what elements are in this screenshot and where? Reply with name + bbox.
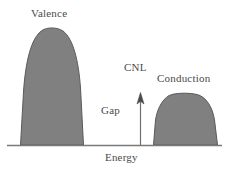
cnl-arrow-icon <box>137 93 144 146</box>
valence-band-shape <box>21 28 84 145</box>
cnl-label: CNL <box>124 61 147 73</box>
conduction-band-label: Conduction <box>157 72 210 84</box>
conduction-band-shape <box>154 93 218 145</box>
band-diagram-figure: Valence CNL Conduction Gap Energy <box>0 0 228 170</box>
band-diagram-plot <box>0 0 228 170</box>
gap-label: Gap <box>101 104 120 116</box>
valence-band-label: Valence <box>31 7 67 19</box>
energy-axis-label: Energy <box>105 151 138 163</box>
